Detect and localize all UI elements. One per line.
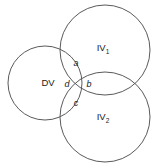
label-iv2-subscript: 2: [106, 117, 110, 124]
venn-diagram-canvas: DV IV1 IV2 a d b c: [0, 0, 160, 168]
venn-diagram-container: DV IV1 IV2 a d b c: [0, 0, 160, 168]
label-iv1-subscript: 1: [106, 48, 110, 55]
label-region-c: c: [74, 98, 79, 108]
label-iv2: IV2: [97, 111, 110, 124]
label-region-d: d: [64, 79, 70, 89]
label-dv: DV: [41, 77, 55, 88]
label-region-b: b: [86, 79, 91, 89]
label-region-a: a: [73, 58, 78, 68]
label-iv1: IV1: [97, 42, 110, 55]
